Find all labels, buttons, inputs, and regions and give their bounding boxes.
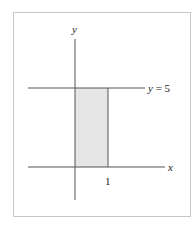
x-tick-label-1: 1	[105, 175, 111, 187]
region-diagram: y x y = 5 1	[0, 0, 195, 231]
line-label: y = 5	[147, 82, 171, 94]
x-axis-label: x	[167, 161, 173, 173]
shaded-region	[75, 88, 108, 167]
y-axis-label: y	[71, 23, 77, 35]
